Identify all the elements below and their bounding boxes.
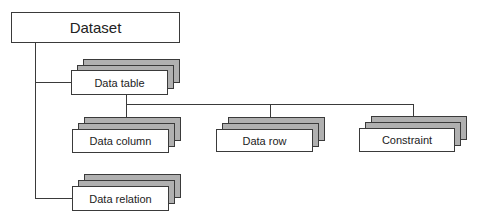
node-data-table-label: Data table [94,77,144,89]
connector-to-data-row [270,104,271,117]
node-data-column-label: Data column [90,135,152,147]
node-dataset: Dataset [11,12,180,43]
node-data-table: Data table [71,59,179,95]
node-data-column: Data column [72,117,180,153]
stack-card-front: Constraint [359,128,455,152]
connector-to-data-column [126,104,127,117]
connector-dataset-trunk [35,42,36,199]
connector-to-data-relation [35,198,72,199]
node-data-relation: Data relation [72,174,180,210]
connector-to-data-table [35,82,72,83]
stack-card-front: Data column [72,129,169,153]
node-constraint: Constraint [359,116,467,152]
node-constraint-label: Constraint [382,134,432,146]
stack-card-front: Data relation [72,186,169,211]
node-data-row: Data row [216,117,324,153]
stack-card-front: Data row [216,129,313,152]
node-dataset-label: Dataset [70,19,122,36]
node-data-row-label: Data row [242,135,286,147]
node-data-relation-label: Data relation [89,193,151,205]
stack-card-front: Data table [71,70,168,95]
